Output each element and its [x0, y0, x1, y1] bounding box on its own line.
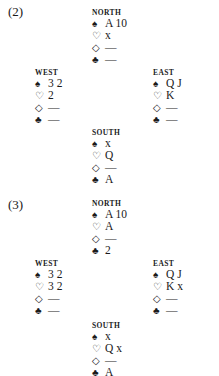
direction-label: NORTH: [92, 8, 127, 17]
spades-holding: 3 2: [48, 77, 62, 89]
diamonds-holding: —: [166, 101, 178, 113]
direction-label: SOUTH: [92, 321, 122, 330]
hearts-holding: Q: [105, 149, 113, 161]
diamonds-holding: —: [105, 232, 117, 244]
spades-holding: A 10: [105, 17, 127, 29]
west-hand: WEST ♠3 2 ♡2 ◇— ♣—: [35, 68, 62, 125]
diagram-label: (2): [8, 4, 23, 20]
north-hand: NORTH ♠A 10 ♡x ◇— ♣—: [92, 8, 127, 65]
spades-holding: x: [105, 330, 111, 342]
hearts-holding: 3 2: [48, 280, 62, 292]
clubs-holding: A: [105, 366, 113, 376]
diamonds-holding: —: [105, 161, 117, 173]
club-icon: ♣: [92, 54, 105, 66]
club-icon: ♣: [92, 174, 105, 186]
diamonds-holding: —: [166, 292, 178, 304]
direction-label: SOUTH: [92, 128, 120, 137]
clubs-holding: 2: [105, 244, 111, 256]
east-hand: EAST ♠Q J ♡K x ◇— ♣—: [153, 259, 183, 316]
clubs-holding: —: [48, 304, 60, 316]
south-hand: SOUTH ♠x ♡Q ◇— ♣A: [92, 128, 120, 185]
diamonds-holding: —: [48, 292, 60, 304]
club-icon: ♣: [153, 305, 166, 317]
hearts-holding: K x: [166, 280, 183, 292]
direction-label: EAST: [153, 259, 183, 268]
direction-label: NORTH: [92, 199, 127, 208]
west-hand: WEST ♠3 2 ♡3 2 ◇— ♣—: [35, 259, 62, 316]
clubs-holding: —: [105, 53, 117, 65]
clubs-holding: —: [48, 113, 60, 125]
club-icon: ♣: [153, 114, 166, 126]
spades-holding: 3 2: [48, 268, 62, 280]
diamonds-holding: —: [48, 101, 60, 113]
direction-label: EAST: [153, 68, 182, 77]
hearts-holding: K: [166, 89, 174, 101]
spades-holding: x: [105, 137, 111, 149]
diamonds-holding: —: [105, 354, 117, 366]
hearts-holding: 2: [48, 89, 54, 101]
clubs-holding: —: [166, 113, 178, 125]
spades-holding: Q J: [166, 77, 182, 89]
hearts-holding: A: [105, 220, 113, 232]
east-hand: EAST ♠Q J ♡K ◇— ♣—: [153, 68, 182, 125]
diagram-label: (3): [8, 197, 23, 213]
clubs-holding: —: [166, 304, 178, 316]
hearts-holding: x: [105, 29, 111, 41]
direction-label: WEST: [35, 259, 62, 268]
hearts-holding: Q x: [105, 342, 122, 354]
spades-holding: A 10: [105, 208, 127, 220]
north-hand: NORTH ♠A 10 ♡A ◇— ♣2: [92, 199, 127, 256]
clubs-holding: A: [105, 173, 113, 185]
direction-label: WEST: [35, 68, 62, 77]
spades-holding: Q J: [166, 268, 182, 280]
club-icon: ♣: [92, 245, 105, 257]
club-icon: ♣: [92, 367, 105, 376]
club-icon: ♣: [35, 305, 48, 317]
club-icon: ♣: [35, 114, 48, 126]
south-hand: SOUTH ♠x ♡Q x ◇— ♣A: [92, 321, 122, 376]
diamonds-holding: —: [105, 41, 117, 53]
